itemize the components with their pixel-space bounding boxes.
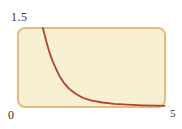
plot-box xyxy=(17,27,166,108)
y-axis-max-label: 1.5 xyxy=(11,11,28,23)
x-axis-max-label: 5 xyxy=(170,107,176,119)
origin-label: 0 xyxy=(8,109,15,121)
decay-curve-figure: 1.5 0 5 xyxy=(0,0,182,129)
